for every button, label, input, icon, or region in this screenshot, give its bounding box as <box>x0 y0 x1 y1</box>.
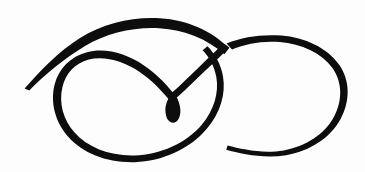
artwork-canvas: Calligraphic Flourish <box>0 0 365 172</box>
calligraphic-flourish-image: Calligraphic Flourish <box>0 0 365 172</box>
